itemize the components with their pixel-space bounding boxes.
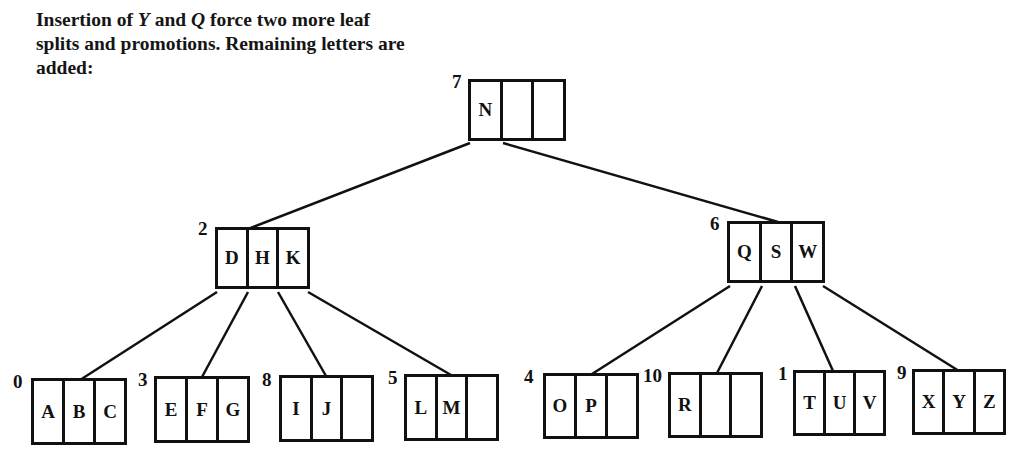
key-cell: B (65, 381, 96, 442)
key-cell: Y (945, 372, 975, 432)
edge-2-to-8 (278, 292, 326, 376)
node-label: 4 (524, 367, 534, 386)
key-cell: T (796, 373, 826, 433)
node-label: 1 (778, 364, 788, 383)
tree-node-leaf: E F G (154, 376, 250, 443)
tree-node-leaf: A B C (31, 378, 127, 445)
key-cell: S (762, 224, 794, 280)
node-label: 0 (13, 372, 23, 391)
key-cell: O (546, 376, 577, 436)
key-cell: M (438, 377, 469, 438)
node-label: 5 (388, 368, 398, 387)
key-cell (343, 378, 371, 439)
edge-2-to-5 (308, 292, 451, 375)
key-cell: A (34, 381, 65, 442)
key-cell: P (577, 376, 608, 436)
key-cell: F (188, 379, 219, 440)
edge-2-to-0 (80, 292, 217, 380)
key-cell: I (282, 378, 313, 439)
key-cell: X (915, 372, 945, 432)
key-cell: V (856, 373, 883, 433)
key-cell (732, 375, 760, 435)
node-label: 2 (198, 219, 208, 238)
key-cell: W (793, 224, 822, 280)
edge-6-to-4 (592, 286, 730, 374)
key-cell: J (313, 378, 344, 439)
key-cell: N (471, 82, 503, 138)
node-label: 7 (452, 72, 462, 91)
key-cell: G (219, 379, 247, 440)
tree-node-leaf: I J (279, 375, 374, 442)
edge-2-to-3 (202, 292, 248, 377)
tree-node-leaf: R (668, 372, 763, 438)
key-cell: H (249, 230, 280, 286)
edge-root-to-2 (248, 143, 470, 229)
key-cell: Z (976, 372, 1003, 432)
node-label: 8 (262, 370, 272, 389)
edge-6-to-9 (823, 286, 959, 371)
tree-node-leaf: L M (404, 374, 499, 441)
node-label: 3 (138, 370, 148, 389)
tree-node-leaf: X Y Z (912, 369, 1006, 435)
key-cell (608, 376, 636, 436)
node-label: 9 (897, 363, 907, 382)
key-cell: D (218, 230, 249, 286)
key-cell: E (157, 379, 188, 440)
node-label: 6 (710, 214, 720, 233)
edge-root-to-6 (503, 143, 778, 222)
tree-node-internal: D H K (215, 227, 310, 289)
key-cell: K (279, 230, 307, 286)
key-cell (702, 375, 733, 435)
node-label: 10 (643, 366, 662, 385)
key-cell: Q (730, 224, 762, 280)
tree-node-leaf: O P (543, 373, 639, 439)
key-cell: L (407, 377, 438, 438)
tree-node-root: N (468, 79, 566, 141)
key-cell (468, 377, 496, 438)
key-cell: C (96, 381, 124, 442)
key-cell: R (671, 375, 702, 435)
key-cell: U (826, 373, 856, 433)
key-cell (534, 82, 563, 138)
tree-node-internal: Q S W (727, 221, 825, 283)
edge-6-to-1 (795, 286, 833, 371)
key-cell (503, 82, 535, 138)
tree-node-leaf: T U V (793, 370, 886, 436)
edge-6-to-10 (717, 286, 762, 373)
